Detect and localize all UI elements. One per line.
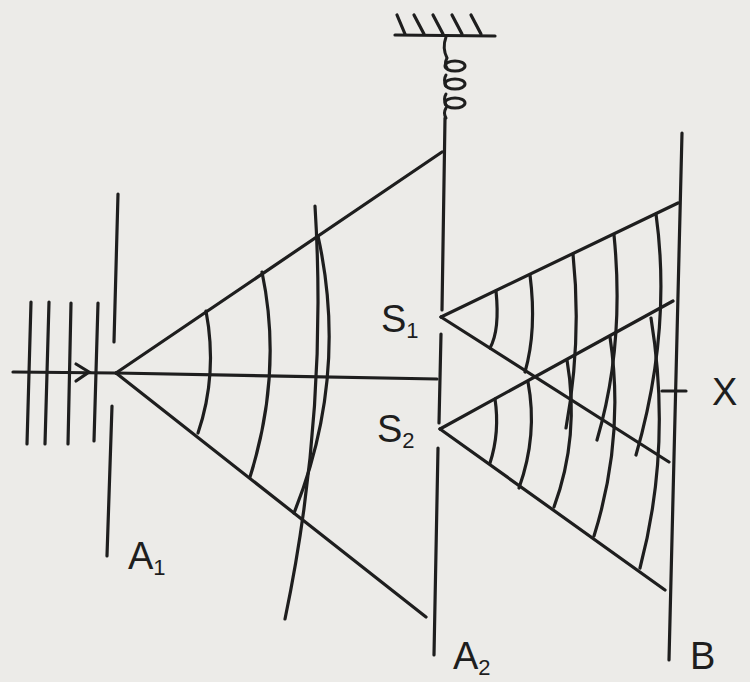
screen-b	[669, 133, 682, 660]
label-a2: A2	[453, 637, 491, 679]
label-s1-subscript: 1	[406, 318, 418, 343]
label-a2-text: A	[453, 635, 478, 677]
label-a1-text: A	[128, 535, 153, 577]
spring-support	[395, 15, 495, 118]
label-a2-subscript: 2	[478, 655, 490, 680]
barrier-a2	[434, 118, 445, 655]
s1-wave-cone	[441, 203, 678, 462]
label-s2: S2	[377, 410, 415, 452]
label-s1: S1	[381, 300, 419, 342]
label-x: X	[712, 373, 737, 411]
label-s1-text: S	[381, 298, 406, 340]
label-b: B	[690, 637, 715, 675]
label-a1: A1	[128, 537, 166, 579]
label-s2-subscript: 2	[402, 428, 414, 453]
double-slit-diagram	[0, 0, 750, 682]
label-s2-text: S	[377, 408, 402, 450]
label-a1-subscript: 1	[153, 555, 165, 580]
